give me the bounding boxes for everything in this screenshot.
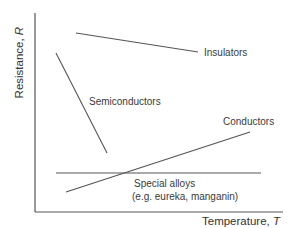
insulators-label: Insulators: [204, 47, 247, 59]
special-alloys-examples: (e.g. eureka, manganin): [132, 191, 238, 203]
x-axis-label: Temperature, T: [202, 215, 280, 228]
insulators-line: [76, 33, 198, 52]
y-axis-label: Resistance, R: [13, 13, 26, 113]
semiconductors-label: Semiconductors: [89, 96, 161, 108]
special-alloys-label: Special alloys: [134, 178, 195, 190]
conductors-label: Conductors: [223, 116, 274, 128]
